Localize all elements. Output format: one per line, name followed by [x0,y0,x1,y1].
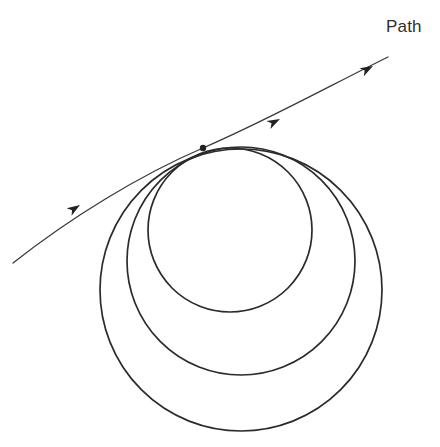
marker-group [200,145,206,151]
large-circle [100,149,382,431]
arrowheads-group [67,62,376,216]
arrow-lower-left-icon [67,201,83,216]
path-group [13,57,388,263]
medium-circle [127,147,355,375]
path-label: Path [386,17,422,37]
circles-group [100,147,382,431]
diagram-svg [0,0,440,447]
path-curve [13,57,388,263]
small-circle [148,148,312,312]
figure-canvas: Path [0,0,440,447]
tangent-point-dot [200,145,206,151]
